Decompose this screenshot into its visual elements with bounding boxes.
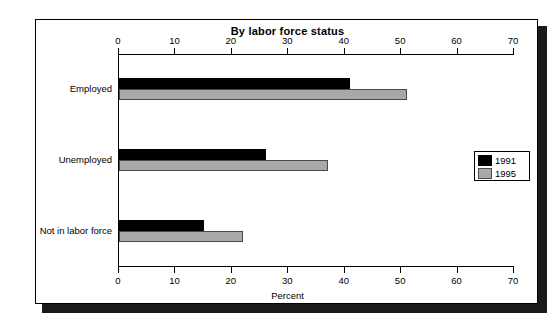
x-tick-bottom-20	[231, 266, 232, 273]
x-tick-label-bottom-40: 40	[329, 275, 359, 286]
category-label-not-in-labor-force: Not in labor force	[36, 225, 112, 236]
x-tick-bottom-40	[344, 266, 345, 273]
x-tick-label-top-0: 0	[103, 35, 133, 46]
x-tick-label-top-60: 60	[442, 35, 472, 46]
x-tick-top-30	[287, 48, 288, 55]
chart-panel: By labor force status 001010202030304040…	[35, 19, 538, 304]
bar-1991-not-in-labor-force	[119, 220, 204, 231]
x-tick-bottom-10	[174, 266, 175, 273]
x-tick-bottom-0	[118, 266, 119, 273]
x-tick-label-bottom-30: 30	[272, 275, 302, 286]
legend-label-1991: 1991	[495, 155, 516, 166]
x-tick-label-top-10: 10	[159, 35, 189, 46]
x-tick-label-bottom-70: 70	[498, 275, 528, 286]
x-tick-label-top-30: 30	[272, 35, 302, 46]
bar-1995-unemployed	[119, 160, 328, 171]
x-tick-bottom-30	[287, 266, 288, 273]
x-tick-top-50	[400, 48, 401, 55]
x-tick-label-bottom-60: 60	[442, 275, 472, 286]
x-tick-label-top-50: 50	[385, 35, 415, 46]
legend-swatch-1991	[478, 155, 492, 166]
x-axis-top-line	[118, 54, 513, 55]
x-tick-top-0	[118, 48, 119, 55]
x-tick-top-20	[231, 48, 232, 55]
category-label-unemployed: Unemployed	[36, 154, 112, 165]
x-tick-label-bottom-50: 50	[385, 275, 415, 286]
x-tick-bottom-70	[513, 266, 514, 273]
bar-1995-employed	[119, 89, 407, 100]
category-label-employed: Employed	[36, 83, 112, 94]
x-tick-top-60	[457, 48, 458, 55]
legend-row-1995: 1995	[478, 167, 516, 179]
x-tick-bottom-60	[457, 266, 458, 273]
chart-legend: 1991 1995	[474, 151, 530, 181]
bar-1991-employed	[119, 78, 350, 89]
x-tick-top-10	[174, 48, 175, 55]
legend-row-1991: 1991	[478, 154, 516, 166]
x-axis-caption: Percent	[36, 290, 539, 301]
x-tick-bottom-50	[400, 266, 401, 273]
chart-figure: By labor force status 001010202030304040…	[0, 0, 553, 336]
x-axis-bottom-line	[118, 266, 513, 267]
x-tick-label-top-70: 70	[498, 35, 528, 46]
legend-label-1995: 1995	[495, 168, 516, 179]
x-tick-label-top-40: 40	[329, 35, 359, 46]
x-tick-label-bottom-10: 10	[159, 275, 189, 286]
bar-1995-not-in-labor-force	[119, 231, 243, 242]
x-tick-label-bottom-20: 20	[216, 275, 246, 286]
x-tick-label-top-20: 20	[216, 35, 246, 46]
x-tick-top-40	[344, 48, 345, 55]
x-tick-top-70	[513, 48, 514, 55]
bar-1991-unemployed	[119, 149, 266, 160]
x-tick-label-bottom-0: 0	[103, 275, 133, 286]
legend-swatch-1995	[478, 168, 492, 179]
